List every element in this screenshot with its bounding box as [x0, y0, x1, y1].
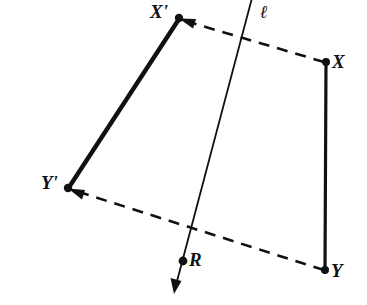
point-label-y-prime: Y': [41, 173, 58, 192]
dashed-line-x-to-x-prime: [192, 23, 324, 62]
point-label-x-prime: X': [150, 2, 168, 21]
geometry-figure: X' X Y' Y R ℓ: [0, 0, 367, 305]
point-dot-x: [322, 58, 330, 66]
line-label-l: ℓ: [260, 3, 268, 21]
dashed-arrow-x-to-x-prime: [179, 19, 324, 63]
solid-segment-x-y: [325, 63, 326, 269]
line-l-arrowhead: [171, 278, 182, 294]
point-label-x: X: [332, 52, 345, 71]
point-dot-x-prime: [175, 14, 183, 22]
figure-canvas: [0, 0, 367, 305]
solid-segment-x-prime-y-prime: [69, 19, 180, 188]
point-dot-y: [321, 266, 329, 274]
point-label-r: R: [189, 250, 202, 269]
dashed-line-y-to-y-prime: [82, 193, 324, 270]
line-l: [176, 0, 252, 285]
point-label-y: Y: [331, 261, 343, 280]
line-l-group: [171, 0, 253, 294]
point-dot-y-prime: [64, 184, 72, 192]
point-dot-r: [179, 257, 188, 266]
